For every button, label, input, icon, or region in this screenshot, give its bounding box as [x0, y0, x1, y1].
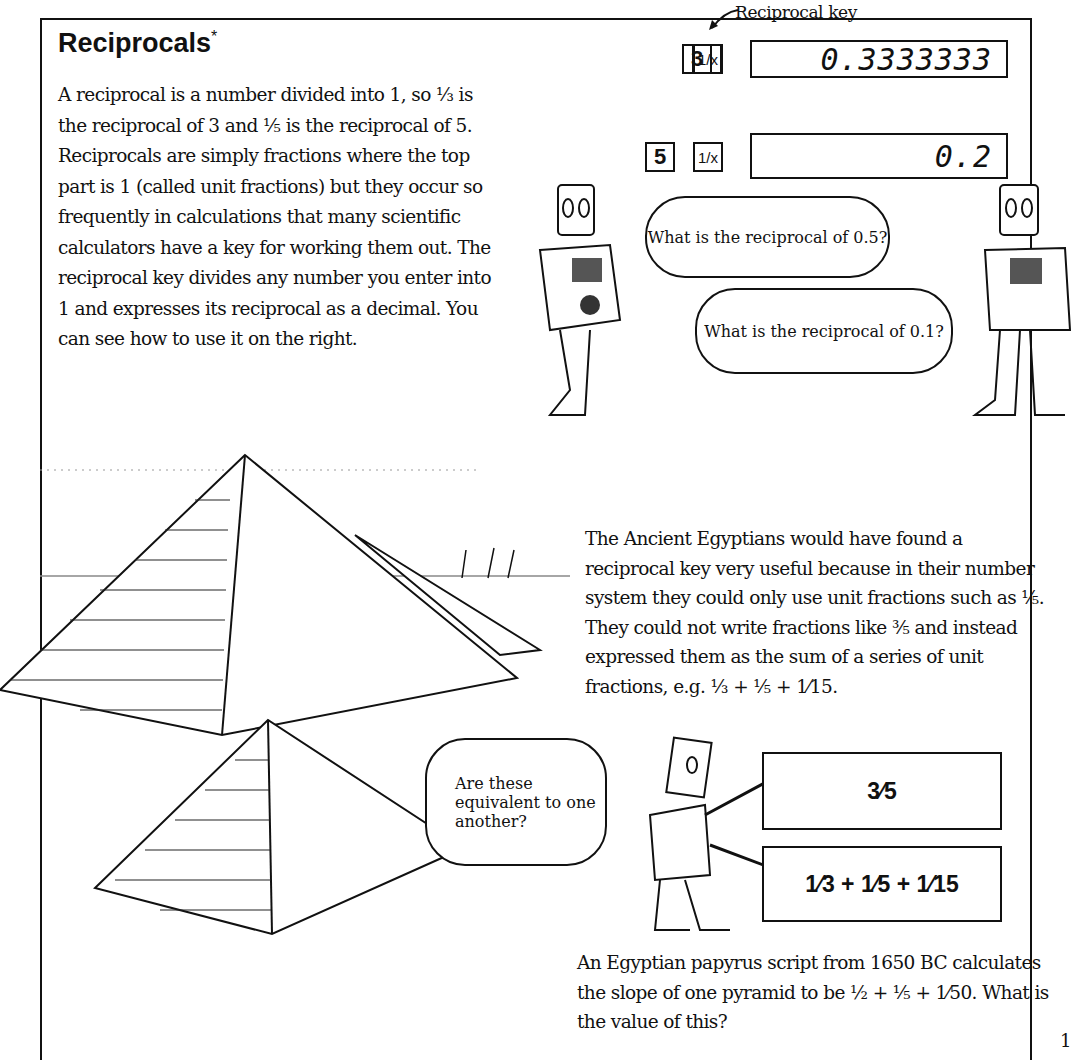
fraction-box-unit-sum: 1⁄3 + 1⁄5 + 1⁄15: [762, 846, 1002, 922]
calculator-display-2: 0.2: [750, 133, 1008, 179]
page-title: Reciprocals*: [58, 28, 217, 59]
speech-bubble-2: What is the reciprocal of 0.1?: [695, 288, 953, 374]
callout-arrow-icon: [706, 6, 740, 32]
speech-bubble-3: Are these equivalent to one another?: [425, 738, 607, 866]
reciprocal-key[interactable]: 1/x: [693, 44, 723, 74]
intro-paragraph: A reciprocal is a number divided into 1,…: [58, 80, 498, 355]
reciprocal-key-callout: Reciprocal key: [735, 2, 857, 22]
egypt-paragraph: The Ancient Egyptians would have found a…: [585, 524, 1055, 701]
palm-trees-icon: [462, 548, 514, 578]
pyramids-illustration: [0, 430, 580, 1030]
page-number: 1: [1060, 1030, 1071, 1051]
robot-left-illustration: [530, 180, 640, 420]
number-key-5[interactable]: 5: [645, 142, 675, 172]
speech-bubble-1: What is the reciprocal of 0.5?: [645, 196, 890, 278]
calculator-display-1: 0.3333333: [750, 40, 1008, 78]
papyrus-paragraph: An Egyptian papyrus script from 1650 BC …: [577, 948, 1057, 1037]
fraction-box-three-fifths: 3⁄5: [762, 752, 1002, 830]
reciprocal-key[interactable]: 1/x: [693, 142, 723, 172]
robot-right-illustration: [970, 180, 1071, 420]
